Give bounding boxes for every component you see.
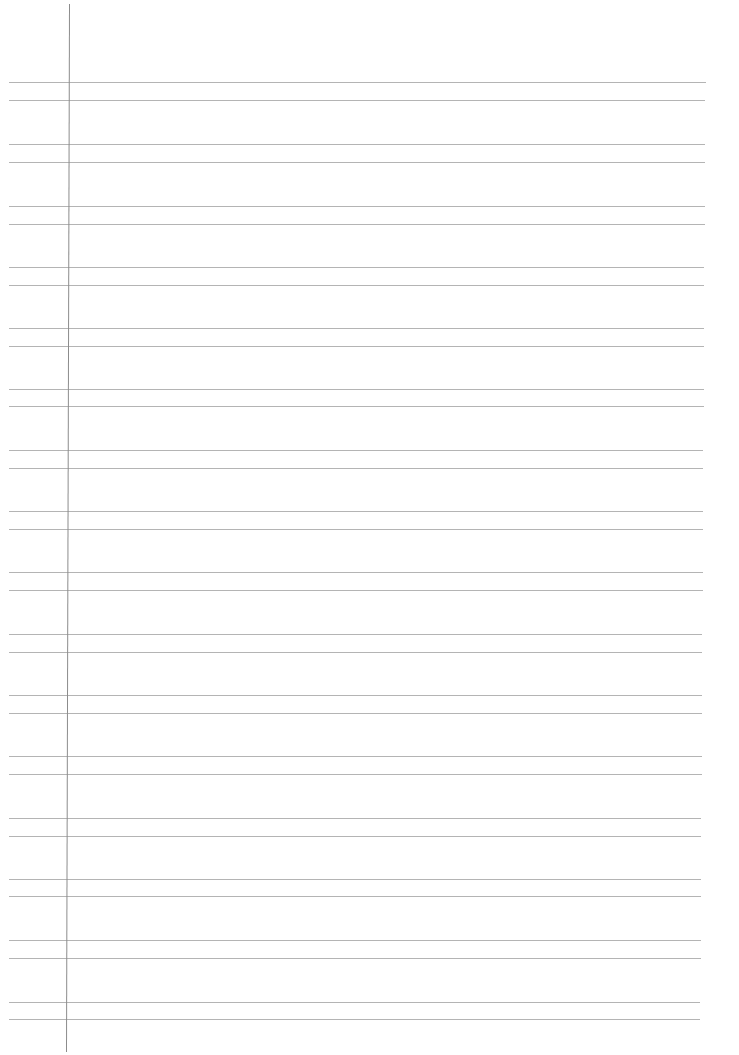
rule-line-lower bbox=[9, 406, 704, 407]
rule-line-upper bbox=[9, 940, 701, 941]
rule-line-lower bbox=[9, 774, 702, 775]
rule-line-lower bbox=[9, 896, 701, 897]
rule-line-lower bbox=[9, 958, 701, 959]
rule-line-lower bbox=[9, 162, 705, 163]
ruled-notebook-page bbox=[0, 0, 739, 1055]
rule-line-lower bbox=[9, 285, 704, 286]
rule-line-lower bbox=[9, 468, 703, 469]
rule-line-lower bbox=[9, 100, 705, 101]
rule-line-upper bbox=[9, 634, 702, 635]
rule-line-lower bbox=[9, 1019, 700, 1020]
rule-line-lower bbox=[9, 529, 703, 530]
rule-line-upper bbox=[9, 389, 704, 390]
rule-line-upper bbox=[9, 206, 705, 207]
rule-line-lower bbox=[9, 713, 702, 714]
rule-line-upper bbox=[9, 572, 703, 573]
rule-line-lower bbox=[9, 224, 705, 225]
rule-line-upper bbox=[9, 82, 706, 83]
rule-line-upper bbox=[9, 511, 703, 512]
rule-line-upper bbox=[9, 818, 701, 819]
rule-line-lower bbox=[9, 836, 701, 837]
rule-line-upper bbox=[9, 144, 705, 145]
rule-line-upper bbox=[9, 450, 703, 451]
rule-line-upper bbox=[9, 756, 702, 757]
rule-line-upper bbox=[9, 1002, 700, 1003]
rule-line-upper bbox=[9, 267, 704, 268]
rule-line-lower bbox=[9, 652, 702, 653]
rule-line-lower bbox=[9, 346, 704, 347]
rule-line-lower bbox=[9, 590, 703, 591]
rule-line-upper bbox=[9, 879, 701, 880]
rule-line-upper bbox=[9, 328, 704, 329]
rule-line-upper bbox=[9, 695, 702, 696]
